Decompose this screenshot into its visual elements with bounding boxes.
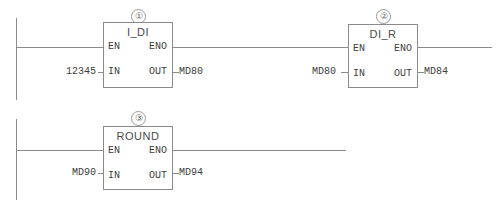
pin-eno-label: ENO (394, 43, 412, 54)
function-block-di-r[interactable]: DI_R EN ENO IN OUT (348, 24, 418, 88)
pin-eno-label: ENO (149, 41, 167, 52)
wire-block2-eno-out (418, 47, 492, 48)
operand-block1-out: MD80 (179, 66, 203, 77)
operand-block3-out: MD94 (179, 167, 203, 178)
network-marker-2: ② (376, 9, 391, 24)
pin-in-label: IN (108, 170, 120, 181)
function-block-name: I_DI (104, 26, 172, 38)
wire-block3-eno-out (173, 150, 346, 151)
pin-out-label: OUT (149, 66, 167, 77)
operand-block2-out: MD84 (424, 66, 448, 77)
function-block-i-di[interactable]: I_DI EN ENO IN OUT (103, 22, 173, 88)
pin-out-label: OUT (149, 170, 167, 181)
network-marker-3: ③ (131, 111, 146, 126)
pin-en-label: EN (108, 145, 120, 156)
function-block-round[interactable]: ROUND EN ENO IN OUT (103, 126, 173, 190)
fbd-canvas: 12345 ① I_DI EN ENO IN OUT MD80 MD80 ② D… (0, 0, 501, 211)
pin-in-label: IN (108, 66, 120, 77)
pin-en-label: EN (108, 41, 120, 52)
operand-block2-in: MD80 (296, 66, 336, 77)
pin-en-label: EN (353, 43, 365, 54)
wire-rail-to-block3-en (16, 150, 103, 151)
operand-block3-in: MD90 (54, 167, 96, 178)
function-block-name: ROUND (104, 130, 172, 142)
pin-eno-label: ENO (149, 145, 167, 156)
wire-rail-to-block1-en (16, 47, 103, 48)
pin-out-label: OUT (394, 68, 412, 79)
function-block-name: DI_R (349, 28, 417, 40)
pin-in-label: IN (353, 68, 365, 79)
operand-block1-in: 12345 (48, 66, 96, 77)
power-rail-rung-1 (16, 18, 17, 100)
wire-block1-eno-to-block2-en (173, 47, 348, 48)
wire-operand-to-block2-in (341, 72, 348, 73)
power-rail-rung-2 (16, 119, 17, 200)
